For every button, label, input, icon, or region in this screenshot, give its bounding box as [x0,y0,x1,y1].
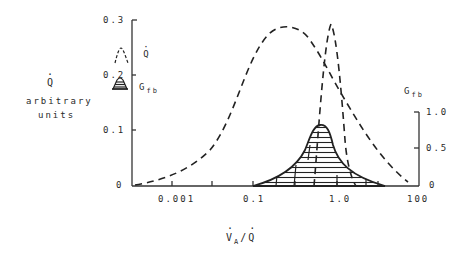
x-axis-label: ·VA/·Q [226,232,256,246]
y-left-tick-0.1: 0.1 [103,125,125,135]
y-left-label-line2: units [38,110,75,120]
y-right-tick-1.0: 1.0 [426,107,448,117]
x-tick-1.0: 1.0 [329,194,351,204]
x-tick-100: 100 [407,194,429,204]
y-left-tick-0.2: 0.2 [103,70,125,80]
y-left-label-symbol: ·Q [40,73,60,88]
gfb-series [253,125,385,186]
y-right-tick-0.5: 0.5 [426,143,448,153]
y-left-label-line1: arbitrary [26,96,93,106]
y-right-tick-0: 0 [429,180,436,190]
legend-label-q: ·Q [140,45,152,59]
x-tick-0.001: 0.001 [158,194,195,204]
y-left-tick-0.3: 0.3 [103,15,125,25]
q-broad-series [135,27,408,185]
left-y-axis [132,20,137,186]
y-right-label: Gfb [404,86,424,99]
y-left-tick-0: 0 [116,180,123,190]
x-tick-0.1: 0.1 [243,194,265,204]
right-y-axis [414,112,419,186]
legend-label-gfb: Gfb [139,82,159,95]
legend-dashed-peak-icon [115,48,128,63]
